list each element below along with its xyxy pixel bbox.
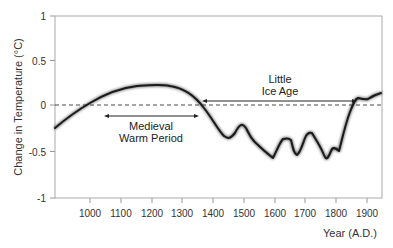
x-tick-label: 1000 [79, 208, 102, 219]
y-tick-label: 1 [40, 11, 46, 22]
temperature-line [55, 85, 381, 159]
x-tick-label: 1200 [141, 208, 164, 219]
x-tick-label: 1300 [171, 208, 194, 219]
x-tick-label: 1500 [233, 208, 256, 219]
x-tick-label: 1100 [110, 208, 132, 219]
x-tick-label: 1800 [325, 208, 348, 219]
lia-label-line2: Ice Age [262, 85, 299, 97]
y-tick-label: -1 [37, 193, 46, 204]
mwp-label-line1: Medieval [129, 120, 173, 132]
medieval-warm-period-annotation: Medieval Warm Period [104, 114, 199, 144]
y-tick-label: 0.5 [32, 56, 46, 67]
plot-frame [55, 16, 382, 198]
little-ice-age-annotation: Little Ice Age [202, 73, 357, 103]
x-axis: 1000 1100 1200 1300 1400 1500 1600 1700 … [79, 198, 379, 239]
x-tick-label: 1700 [294, 208, 317, 219]
y-tick-label: -0.5 [29, 147, 47, 158]
x-tick-label: 1400 [202, 208, 225, 219]
y-axis: 1 0.5 0 -0.5 -1 Change in Temperature (°… [12, 11, 55, 204]
x-axis-label: Year (A.D.) [323, 227, 377, 239]
chart: 1 0.5 0 -0.5 -1 Change in Temperature (°… [0, 0, 393, 248]
y-tick-label: 0 [40, 100, 46, 111]
y-axis-label: Change in Temperature (°C) [12, 38, 24, 175]
x-tick-label: 1600 [264, 208, 287, 219]
mwp-label-line2: Warm Period [119, 132, 183, 144]
lia-label-line1: Little [268, 73, 291, 85]
x-tick-label: 1900 [356, 208, 379, 219]
